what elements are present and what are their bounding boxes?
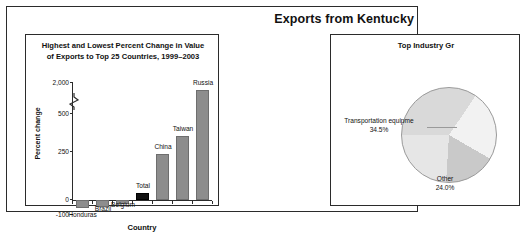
x-tick-mark-6 <box>192 201 193 204</box>
axis-break-icon <box>68 93 80 110</box>
y-tick-label-500: 500 <box>58 110 69 117</box>
pie-leader-line-transportation <box>427 127 457 128</box>
y-tick-label-250: 250 <box>58 148 69 155</box>
y-axis-title: Percent change <box>34 101 41 167</box>
bar-label-total: Total <box>123 182 163 189</box>
bar-label-belgium: Belgium <box>102 201 144 208</box>
document-header: Exports from Kentucky <box>6 8 418 30</box>
x-tick-mark-5 <box>172 201 173 204</box>
bar-chart-panel: Highest and Lowest Percent Change in Val… <box>25 34 219 206</box>
bar-label-russia: Russia <box>183 79 223 86</box>
pie-slice-value-other: 24.0% <box>436 184 455 191</box>
y-tick-label-2000: 2,000 <box>52 79 69 86</box>
pie-slice-name-other: Other <box>437 175 454 182</box>
y-tick-label-0: 0 <box>65 196 69 203</box>
x-axis-title: Country <box>72 223 212 232</box>
pie-slice-name-transportation: Transportation equipme <box>344 117 413 124</box>
y-tick-mark-250 <box>70 151 73 152</box>
bar-chart-plot-area: Percent change 2,000 500 250 0 <box>26 35 220 207</box>
x-tick-mark-1 <box>92 201 93 204</box>
y-tick-mark-2000 <box>70 82 73 83</box>
x-tick-mark-4 <box>152 201 153 204</box>
bar-label-honduras: Honduras <box>60 211 105 218</box>
x-tick-mark-0 <box>72 201 73 204</box>
bar-label-china: China <box>143 143 183 150</box>
bar-total <box>136 193 149 200</box>
page-title: Exports from Kentucky <box>274 12 414 26</box>
pie-chart-plot-area: Transportation equipme 34.5% Other 24.0% <box>355 65 505 197</box>
pie-slice-value-transportation: 34.5% <box>370 126 389 133</box>
pie-slice-label-transportation: Transportation equipme 34.5% <box>331 117 427 134</box>
bar-russia <box>196 90 209 200</box>
bar-china <box>156 154 169 200</box>
pie-chart-panel: Top Industry Gr Transportation equipme 3… <box>330 34 520 206</box>
pie-chart-title: Top Industry Gr <box>331 41 521 50</box>
y-tick-mark-500 <box>70 113 73 114</box>
screenshot-root: Exports from Kentucky Highest and Lowest… <box>0 0 424 230</box>
pie-graphic <box>401 87 497 183</box>
bar-label-taiwan: Taiwan <box>163 125 203 132</box>
x-tick-mark-7 <box>212 201 213 204</box>
pie-slice-label-other: Other 24.0% <box>417 175 473 192</box>
